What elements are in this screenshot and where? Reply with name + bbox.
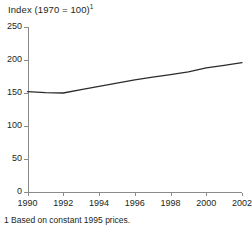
- chart-figure: Index (1970 = 100)1 050100150200250 1990…: [0, 0, 252, 231]
- plot-area: [0, 0, 252, 231]
- y-tick-label-250: 250: [0, 21, 22, 31]
- x-tick-label-2002: 2002: [222, 198, 252, 208]
- y-tick-label-150: 150: [0, 87, 22, 97]
- y-tick-label-50: 50: [0, 153, 22, 163]
- x-tick-label-1990: 1990: [8, 198, 48, 208]
- chart-footnote: 1 Based on constant 1995 prices.: [4, 215, 130, 225]
- x-tick-label-1996: 1996: [115, 198, 155, 208]
- axes: [28, 27, 243, 193]
- x-tick-label-1992: 1992: [43, 198, 83, 208]
- x-tick-label-1998: 1998: [151, 198, 191, 208]
- y-tick-label-200: 200: [0, 54, 22, 64]
- y-tick-label-0: 0: [0, 186, 22, 196]
- axis-ticks: [24, 28, 243, 197]
- data-line-series-index: [28, 63, 243, 93]
- x-tick-label-1994: 1994: [79, 198, 119, 208]
- y-tick-label-100: 100: [0, 120, 22, 130]
- x-tick-label-2000: 2000: [186, 198, 226, 208]
